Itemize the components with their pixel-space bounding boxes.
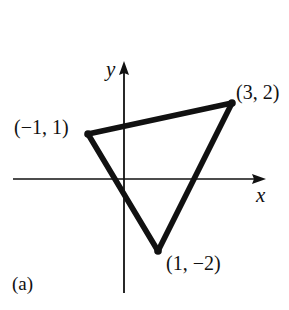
panel-letter-label: (a) xyxy=(12,274,33,293)
vertex-a-dot xyxy=(84,130,92,138)
edge-b-c xyxy=(158,103,232,251)
edge-a-b xyxy=(88,103,232,134)
vertex-a-label: (−1, 1) xyxy=(14,117,69,137)
vertex-b-label: (3, 2) xyxy=(236,82,279,102)
y-axis-arrowhead xyxy=(119,61,129,75)
vertex-c-dot xyxy=(154,247,162,255)
y-axis-label: y xyxy=(106,59,115,80)
vertex-b-dot xyxy=(228,99,236,107)
x-axis-label: x xyxy=(256,185,265,206)
edge-c-a xyxy=(88,134,158,251)
figure-panel: (−1, 1) (3, 2) (1, −2) y x (a) xyxy=(0,0,289,310)
coordinate-plot xyxy=(0,0,289,310)
vertex-c-label: (1, −2) xyxy=(166,253,221,273)
